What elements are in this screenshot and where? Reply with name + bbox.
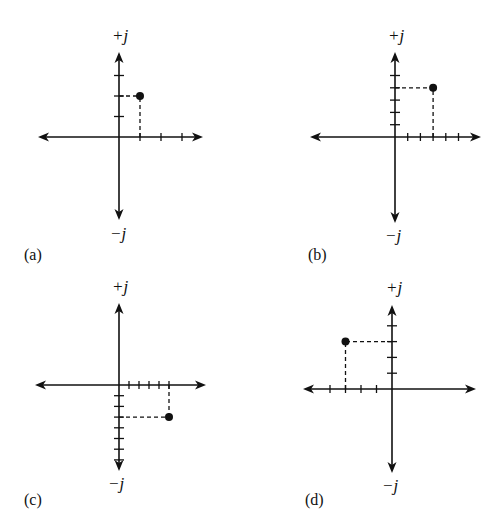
data-point [342, 338, 350, 346]
panel-b [310, 52, 481, 223]
complex-plane-figure [0, 0, 501, 511]
panel-d [303, 305, 476, 473]
data-point [165, 413, 173, 421]
panel-c [35, 303, 206, 471]
data-point [429, 84, 437, 92]
data-point [136, 92, 144, 100]
panel-a [38, 52, 203, 220]
